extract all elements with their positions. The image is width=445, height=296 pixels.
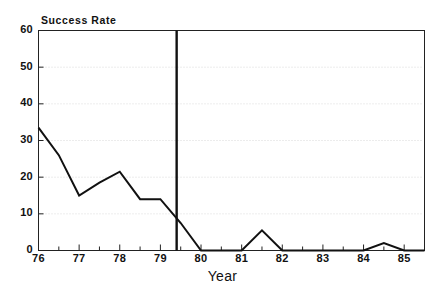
- gridlines: [40, 67, 424, 214]
- x-axis-tick-label: 83: [303, 252, 343, 264]
- y-axis-ticks: [39, 31, 44, 251]
- chart-figure: Success Rate 0102030405060 7677787980818…: [0, 0, 445, 296]
- x-axis-tick-label: 81: [222, 252, 262, 264]
- x-axis-tick-label: 84: [344, 252, 384, 264]
- data-series-line: [39, 128, 425, 251]
- x-axis-tick-label: 77: [59, 252, 99, 264]
- x-axis-tick-label: 85: [384, 252, 424, 264]
- x-axis-tick-label: 82: [262, 252, 302, 264]
- y-axis-tick-label: 10: [3, 206, 33, 218]
- y-axis-tick-label: 60: [3, 23, 33, 35]
- y-axis-tick-label: 30: [3, 133, 33, 145]
- x-axis-tick-label: 79: [140, 252, 180, 264]
- y-axis-tick-label: 50: [3, 60, 33, 72]
- y-axis-title: Success Rate: [41, 14, 117, 26]
- x-axis-title: Year: [0, 268, 445, 284]
- y-axis-tick-label: 40: [3, 96, 33, 108]
- x-axis-tick-label: 80: [181, 252, 221, 264]
- x-axis-tick-label: 78: [100, 252, 140, 264]
- x-axis-tick-label: 76: [19, 252, 59, 264]
- y-axis-tick-label: 20: [3, 170, 33, 182]
